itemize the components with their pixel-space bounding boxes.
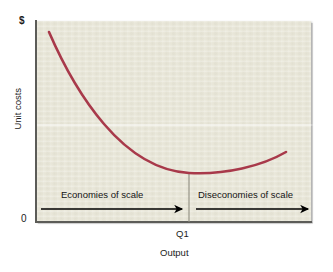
economies-of-scale-label: Economies of scale [61,190,143,200]
y-axis-title: Unit costs [13,78,23,140]
plot-area-right-shadow [311,23,313,223]
y-axis-origin-label: 0 [21,214,27,224]
x-axis-title: Output [160,248,189,258]
q1-tick-label: Q1 [176,229,189,239]
y-axis-top-label: $ [19,16,25,26]
paper-highlight-band [36,124,329,126]
y-axis-line [35,20,37,223]
x-axis-line [35,221,312,223]
diseconomies-of-scale-label: Diseconomies of scale [198,190,293,200]
cost-curve-chart: $ 0 Unit costs Economies of scale Diseco… [0,0,333,272]
